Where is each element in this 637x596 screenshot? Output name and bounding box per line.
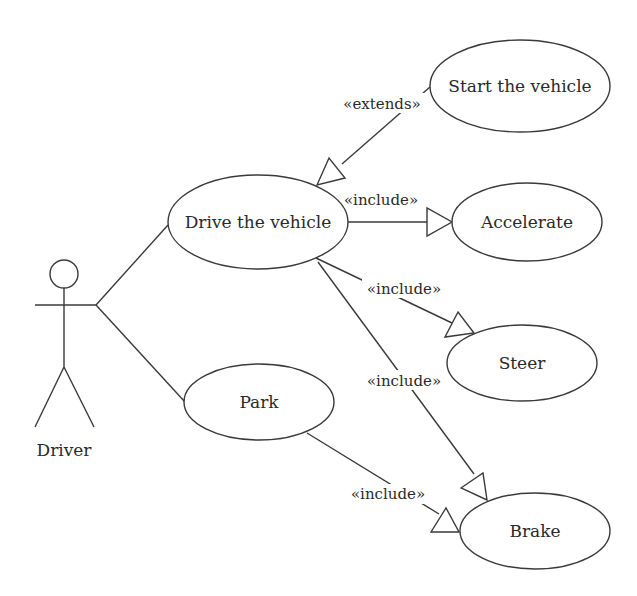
use-case-drive: Drive the vehicle — [168, 175, 348, 269]
use-case-label: Drive the vehicle — [185, 212, 332, 232]
use-case-park: Park — [184, 364, 334, 440]
use-case-label: Park — [239, 392, 279, 412]
hollow-arrowhead-icon — [461, 473, 487, 500]
actor-driver: Driver — [35, 260, 96, 460]
use-case-brake: Brake — [460, 493, 610, 569]
include-label-steer: «include» — [367, 280, 441, 298]
extends-start-drive: «extends» — [317, 87, 430, 185]
extends-label: «extends» — [343, 95, 421, 113]
actor-label: Driver — [37, 440, 93, 460]
use-case-accelerate: Accelerate — [452, 183, 602, 261]
use-case-label: Brake — [509, 521, 560, 541]
use-case-label: Steer — [499, 353, 547, 373]
use-case-diagram: Driver «extends» «include» «include» «in… — [0, 0, 637, 596]
include-label-brake-park: «include» — [351, 485, 425, 503]
include-label-brake-drive: «include» — [367, 372, 441, 390]
use-case-label: Accelerate — [480, 212, 573, 232]
include-park-brake: «include» — [307, 433, 459, 532]
actor-left-leg — [35, 367, 64, 427]
hollow-arrowhead-icon — [445, 312, 474, 337]
hollow-arrowhead-icon — [317, 158, 345, 185]
use-case-label: Start the vehicle — [448, 76, 591, 96]
association-driver-drive — [96, 225, 168, 305]
include-drive-accelerate: «include» — [344, 191, 452, 236]
actor-head — [50, 260, 78, 288]
use-case-start: Start the vehicle — [430, 40, 610, 132]
association-driver-park — [96, 305, 185, 402]
actor-right-leg — [64, 367, 94, 427]
include-label-accelerate: «include» — [344, 191, 418, 209]
include-drive-steer: «include» — [316, 258, 474, 337]
hollow-arrowhead-icon — [427, 208, 452, 236]
use-case-steer: Steer — [447, 325, 597, 401]
